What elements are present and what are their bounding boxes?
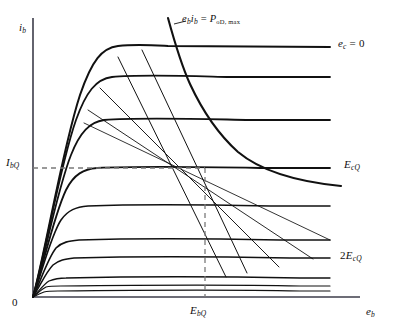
x-axis-label: eb	[366, 306, 375, 317]
ecq-curve-label: EcQ	[344, 159, 360, 170]
characteristic-curve-6	[33, 239, 330, 297]
characteristic-curve-10	[33, 290, 330, 297]
characteristic-curves-group	[33, 45, 330, 297]
characteristic-curve-8	[33, 277, 330, 297]
load-lines-group	[84, 50, 330, 277]
two-ecq-curve-label: 2EcQ	[340, 250, 362, 261]
ec-zero-curve-label: ec = 0	[338, 38, 365, 49]
characteristic-curve-ec0	[33, 45, 330, 297]
characteristics-plot	[0, 0, 397, 330]
dissipation-hyperbola-label: ebib = PoD, max	[182, 14, 240, 25]
ibq-label: IbQ	[6, 157, 19, 168]
axes-group	[33, 18, 360, 297]
y-axis-label: ib	[19, 22, 26, 33]
origin-label: 0	[12, 297, 18, 308]
load-line-5	[84, 123, 330, 240]
ebq-label: EbQ	[190, 305, 207, 316]
load-line-4	[88, 110, 313, 259]
plate-characteristics-figure: ib eb 0 IbQ EbQ ec = 0 EcQ 2EcQ ebib = P…	[0, 0, 397, 330]
